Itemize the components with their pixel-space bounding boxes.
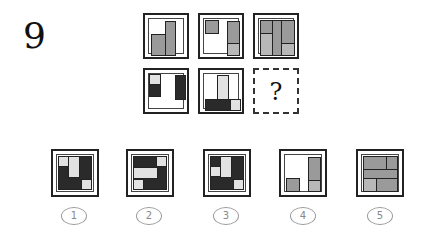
option-4[interactable]	[279, 149, 327, 197]
small-square	[205, 20, 219, 34]
grid-cell-r2c1	[143, 68, 189, 114]
tall-bar	[165, 21, 176, 56]
question-mark: ?	[255, 78, 297, 106]
dark-square	[149, 84, 161, 97]
short-bar	[151, 34, 166, 56]
option-1-label[interactable]: 1	[61, 207, 87, 225]
option-2[interactable]	[126, 149, 174, 197]
top-right-square	[386, 156, 398, 170]
grid-cell-missing: ?	[253, 68, 299, 114]
tall-light-bar	[217, 75, 229, 100]
dark-bottom-strip	[205, 99, 231, 111]
light-square-bottom-left	[133, 179, 144, 190]
light-square-bottom-right	[81, 179, 92, 190]
tall-dark-bar	[175, 75, 186, 100]
grid-cell-r1c2	[198, 13, 244, 59]
option-4-label[interactable]: 4	[290, 207, 316, 225]
option-5[interactable]	[356, 149, 404, 197]
bar-bottom-segment	[227, 43, 240, 56]
small-square	[286, 178, 300, 192]
question-number: 9	[23, 18, 46, 54]
option-1[interactable]	[51, 149, 99, 197]
bar-bottom-segment	[308, 180, 321, 192]
top-wide-bar	[363, 156, 387, 170]
light-square-bottom-right	[233, 179, 244, 190]
grid-cell-r1c1	[143, 13, 189, 59]
option-3[interactable]	[203, 149, 251, 197]
col3-top	[281, 20, 295, 44]
light-tall-bar	[220, 156, 232, 178]
grid-cell-r2c2	[198, 68, 244, 114]
bottom-left-square	[363, 178, 377, 192]
light-bottom-square	[230, 99, 241, 111]
option-2-label[interactable]: 2	[136, 207, 162, 225]
light-square-top-right	[156, 156, 167, 167]
col3-bottom	[281, 43, 295, 56]
option-5-label[interactable]: 5	[367, 207, 393, 225]
bottom-right-bar	[376, 178, 398, 192]
light-wide-bar	[133, 167, 158, 179]
light-tall-bar	[68, 156, 80, 178]
grid-cell-r1c3	[253, 13, 299, 59]
tall-bar	[308, 157, 321, 181]
tall-bar	[227, 21, 240, 44]
option-3-label[interactable]: 3	[213, 207, 239, 225]
